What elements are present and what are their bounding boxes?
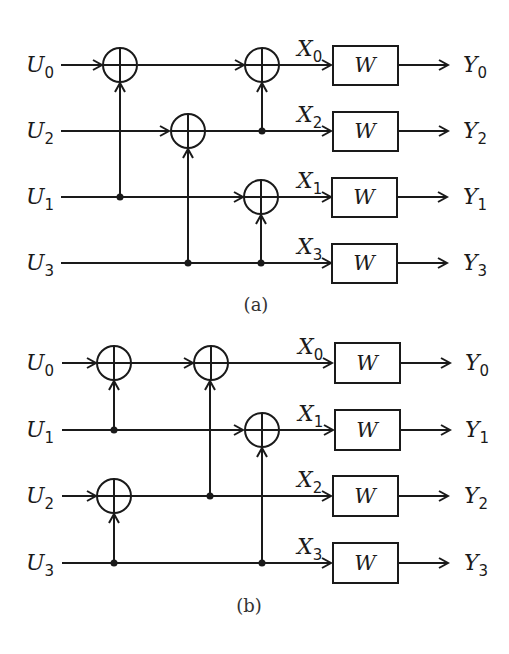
xor-node-b4 xyxy=(97,479,131,513)
w-block-a1: W xyxy=(333,112,398,151)
junction-dot xyxy=(207,493,214,500)
input-label-u0: U0 xyxy=(26,52,54,82)
x-label-x0: X0 xyxy=(296,334,323,364)
x-label-x3: X3 xyxy=(295,234,322,264)
input-label-u3: U3 xyxy=(26,250,54,280)
x-label-x1: X1 xyxy=(296,401,323,431)
input-label-u2: U2 xyxy=(26,483,54,513)
xor-node-a4 xyxy=(244,180,278,214)
caption-b: (b) xyxy=(236,595,262,616)
svg-text:W: W xyxy=(354,551,378,575)
x-label-x2: X2 xyxy=(295,102,322,132)
output-label-y2: Y2 xyxy=(464,483,488,513)
polar-encoder-diagrams: U0 U2 U1 U3 X0 X2 X1 X3 W xyxy=(0,0,509,654)
output-label-y1: Y1 xyxy=(463,184,487,214)
x-label-x2: X2 xyxy=(295,467,322,497)
caption-a: (a) xyxy=(244,294,269,315)
junction-dot xyxy=(259,560,266,567)
svg-text:W: W xyxy=(353,185,377,209)
svg-text:W: W xyxy=(356,418,380,442)
svg-text:W: W xyxy=(354,119,378,143)
input-label-u3: U3 xyxy=(26,550,54,580)
x-label-x1: X1 xyxy=(295,168,322,198)
input-label-u1: U1 xyxy=(26,417,54,447)
xor-node-b1 xyxy=(97,346,131,380)
w-block-a0: W xyxy=(333,46,398,85)
junction-dot xyxy=(111,560,118,567)
output-label-y0: Y0 xyxy=(463,52,487,82)
xor-node-a2 xyxy=(171,114,205,148)
input-label-u2: U2 xyxy=(26,118,54,148)
panel-b: U0 U1 U2 U3 X0 X1 X2 X3 W xyxy=(26,334,489,616)
input-label-u0: U0 xyxy=(26,350,54,380)
xor-node-a1 xyxy=(103,48,137,82)
w-block-a2: W xyxy=(332,178,397,217)
junction-dot xyxy=(258,260,265,267)
x-label-x0: X0 xyxy=(295,36,322,66)
xor-node-b2 xyxy=(194,346,228,380)
svg-text:W: W xyxy=(353,251,377,275)
w-block-b3: W xyxy=(333,543,398,583)
w-block-b1: W xyxy=(335,410,400,450)
junction-dot xyxy=(117,194,124,201)
output-label-y3: Y3 xyxy=(463,250,487,280)
xor-node-a3 xyxy=(245,48,279,82)
junction-dot xyxy=(111,427,118,434)
junction-dot xyxy=(259,128,266,135)
xor-node-b3 xyxy=(245,413,279,447)
panel-a: U0 U2 U1 U3 X0 X2 X1 X3 W xyxy=(26,36,487,315)
svg-text:W: W xyxy=(354,484,378,508)
svg-text:W: W xyxy=(356,351,380,375)
w-block-a3: W xyxy=(332,244,397,283)
output-label-y2: Y2 xyxy=(463,118,487,148)
output-label-y1: Y1 xyxy=(465,417,489,447)
x-label-x3: X3 xyxy=(295,534,322,564)
junction-dot xyxy=(185,260,192,267)
input-label-u1: U1 xyxy=(26,184,54,214)
w-block-b0: W xyxy=(335,343,400,383)
output-label-y3: Y3 xyxy=(464,550,488,580)
output-label-y0: Y0 xyxy=(465,350,489,380)
w-block-b2: W xyxy=(333,476,398,516)
svg-text:W: W xyxy=(354,53,378,77)
